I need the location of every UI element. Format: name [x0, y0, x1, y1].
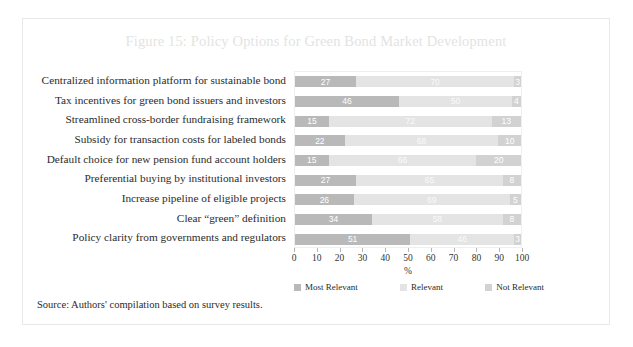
bar-segment: 46	[295, 96, 399, 107]
category-label: Tax incentives for green bond issuers an…	[55, 91, 286, 111]
stacked-bar: 51463	[295, 234, 521, 245]
bar-segment: 26	[295, 194, 354, 205]
stacked-bar: 27703	[295, 76, 521, 87]
category-label: Policy clarity from governments and regu…	[72, 228, 286, 248]
bar-segment: 65	[356, 175, 503, 186]
chart-legend: Most RelevantRelevantNot Relevant	[294, 282, 544, 292]
bar-segment: 58	[372, 214, 503, 225]
legend-swatch-icon	[294, 284, 301, 291]
bar-value-label: 3	[515, 78, 520, 87]
bar-value-label: 66	[398, 156, 407, 165]
x-axis-tick-label: 50	[403, 253, 413, 263]
bar-value-label: 51	[348, 235, 357, 244]
legend-swatch-icon	[485, 284, 492, 291]
bar-segment: 27	[295, 76, 356, 87]
x-axis-tick-label: 80	[472, 253, 482, 263]
x-axis-tick-label: 60	[426, 253, 436, 263]
bar-segment: 34	[295, 214, 372, 225]
chart-title: Figure 15: Policy Options for Green Bond…	[23, 33, 609, 50]
x-axis-tick	[476, 248, 477, 252]
category-label: Clear “green” definition	[177, 209, 286, 229]
category-label: Preferential buying by institutional inv…	[85, 169, 286, 189]
bar-row: 51463	[295, 229, 521, 249]
bar-segment: 3	[514, 234, 521, 245]
legend-item[interactable]: Relevant	[400, 282, 443, 292]
bar-value-label: 4	[514, 97, 519, 106]
stacked-bar: 226810	[295, 135, 521, 146]
bar-row: 157213	[295, 111, 521, 131]
bar-segment: 51	[295, 234, 410, 245]
category-label: Increase pipeline of eligible projects	[122, 189, 286, 209]
bar-value-label: 22	[315, 137, 324, 146]
bar-value-label: 65	[425, 176, 434, 185]
bar-row: 156620	[295, 151, 521, 171]
stacked-bar: 26695	[295, 194, 521, 205]
stacked-bar: 27658	[295, 175, 521, 186]
x-axis-tick	[499, 248, 500, 252]
stacked-bar: 157213	[295, 116, 521, 127]
x-axis-title: %	[294, 266, 522, 276]
bar-value-label: 58	[433, 215, 442, 224]
legend-item[interactable]: Most Relevant	[294, 282, 358, 292]
bar-value-label: 46	[457, 235, 466, 244]
bar-row: 226810	[295, 131, 521, 151]
bar-value-label: 20	[494, 156, 503, 165]
source-note: Source: Authors' compilation based on su…	[37, 299, 263, 310]
bar-row: 34588	[295, 210, 521, 230]
bar-segment: 72	[329, 116, 492, 127]
category-labels: Centralized information platform for sus…	[33, 71, 291, 248]
bar-value-label: 70	[430, 78, 439, 87]
x-axis-tick	[362, 248, 363, 252]
x-axis-tick	[454, 248, 455, 252]
bar-value-label: 8	[510, 215, 515, 224]
bar-segment: 46	[410, 234, 514, 245]
bar-value-label: 15	[307, 117, 316, 126]
stacked-bar: 156620	[295, 155, 521, 166]
category-label: Default choice for new pension fund acco…	[47, 150, 286, 170]
x-axis-tick	[431, 248, 432, 252]
bar-row: 46504	[295, 92, 521, 112]
bar-segment: 66	[329, 155, 477, 166]
x-axis-tick	[522, 248, 523, 252]
x-axis-tick-label: 20	[335, 253, 345, 263]
legend-label: Most Relevant	[305, 282, 358, 292]
bar-value-label: 15	[307, 156, 316, 165]
bar-value-label: 69	[427, 196, 436, 205]
bar-segment: 13	[492, 116, 521, 127]
bar-value-label: 72	[406, 117, 415, 126]
category-label: Centralized information platform for sus…	[42, 71, 286, 91]
x-axis-tick-label: 70	[449, 253, 459, 263]
bar-segment: 5	[510, 194, 521, 205]
plot-area: 2770346504157213226810156620276582669534…	[294, 71, 522, 248]
bar-row: 26695	[295, 190, 521, 210]
bar-segment: 27	[295, 175, 356, 186]
bar-value-label: 68	[417, 137, 426, 146]
bar-value-label: 3	[515, 235, 520, 244]
bar-segment: 20	[476, 155, 521, 166]
bar-segment: 4	[512, 96, 521, 107]
bar-value-label: 26	[320, 196, 329, 205]
bar-value-label: 27	[321, 78, 330, 87]
x-axis-tick-label: 10	[312, 253, 322, 263]
bar-row: 27703	[295, 72, 521, 92]
x-axis-tick	[385, 248, 386, 252]
bar-segment: 8	[503, 175, 521, 186]
legend-item[interactable]: Not Relevant	[485, 282, 544, 292]
x-axis-tick-label: 90	[494, 253, 504, 263]
bar-segment: 70	[356, 76, 514, 87]
legend-label: Not Relevant	[496, 282, 544, 292]
bar-row: 27658	[295, 170, 521, 190]
x-axis-tick	[317, 248, 318, 252]
bar-value-label: 5	[513, 196, 518, 205]
bar-value-label: 34	[329, 215, 338, 224]
bar-value-label: 10	[505, 137, 514, 146]
stacked-bar: 34588	[295, 214, 521, 225]
x-axis-tick-label: 40	[380, 253, 390, 263]
category-label: Subsidy for transaction costs for labele…	[75, 130, 286, 150]
x-axis-tick-label: 0	[292, 253, 297, 263]
bar-value-label: 8	[510, 176, 515, 185]
bar-segment: 10	[498, 135, 521, 146]
bar-segment: 68	[345, 135, 499, 146]
x-axis-tick	[340, 248, 341, 252]
legend-label: Relevant	[411, 282, 443, 292]
